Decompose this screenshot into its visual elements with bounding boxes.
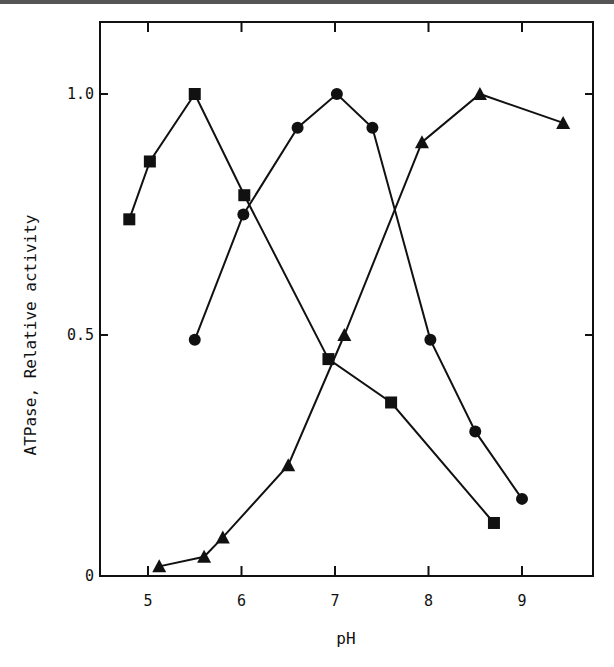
square-marker [123,213,135,225]
x-tick-label: 9 [517,592,526,610]
axis-ticks: 5678900.51.0 [67,22,593,610]
series-triangles [152,87,570,572]
circle-marker [331,88,343,100]
triangle-marker [337,328,351,341]
square-marker [488,517,500,529]
circle-marker [292,122,304,134]
y-tick-label: 0.5 [67,326,94,344]
series-line [129,94,494,523]
y-tick-label: 0 [85,567,94,585]
x-tick-label: 5 [143,592,152,610]
square-marker [144,155,156,167]
circle-marker [366,122,378,134]
triangle-marker [556,116,570,129]
series-circles [189,88,528,505]
data-series [123,87,570,572]
circle-marker [424,334,436,346]
series-line [159,94,563,566]
x-tick-label: 7 [330,592,339,610]
circle-marker [469,425,481,437]
x-tick-label: 8 [424,592,433,610]
square-marker [189,88,201,100]
circle-marker [237,209,249,221]
square-marker [385,396,397,408]
circle-marker [516,493,528,505]
x-tick-label: 6 [237,592,246,610]
chart: 5678900.51.0 pH ATPase, Relative activit… [0,0,614,667]
square-marker [238,189,250,201]
y-axis-label: ATPase, Relative activity [21,214,40,455]
circle-marker [189,334,201,346]
x-axis-label: pH [336,629,355,648]
y-tick-label: 1.0 [67,85,94,103]
triangle-marker [473,87,487,100]
series-squares [123,88,500,529]
triangle-marker [281,458,295,471]
series-line [195,94,522,499]
